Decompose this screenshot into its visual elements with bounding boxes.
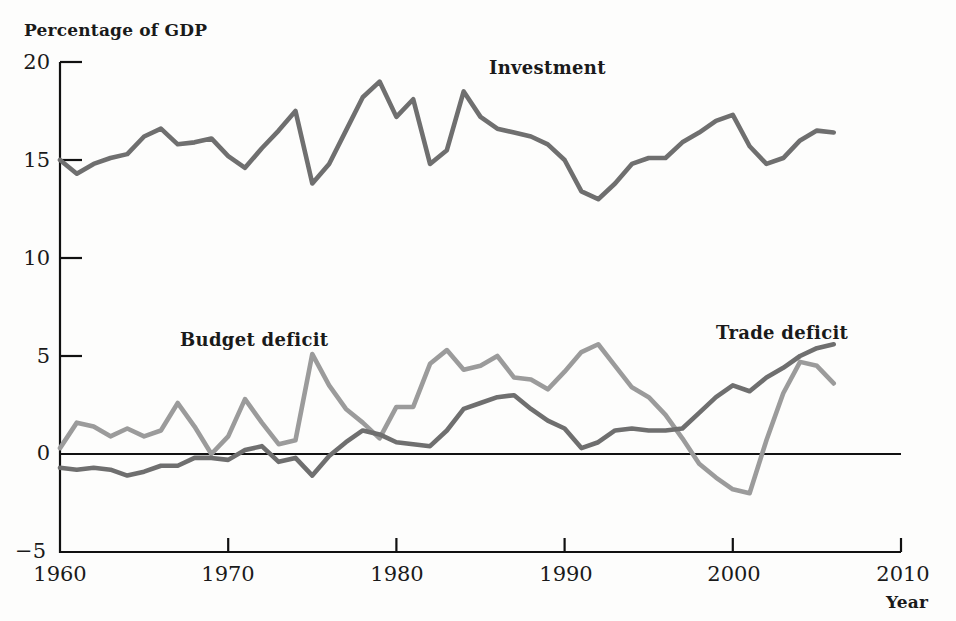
axis-lines (60, 62, 901, 552)
tick-marks (60, 62, 901, 552)
series-lines (60, 82, 834, 494)
chart-figure: Percentage of GDP Year 20 15 10 5 0 −5 1… (0, 0, 956, 621)
axis-frame (60, 62, 901, 552)
chart-plot-area (0, 0, 956, 621)
series-line-budget-deficit (60, 344, 834, 493)
series-line-investment (60, 82, 834, 200)
